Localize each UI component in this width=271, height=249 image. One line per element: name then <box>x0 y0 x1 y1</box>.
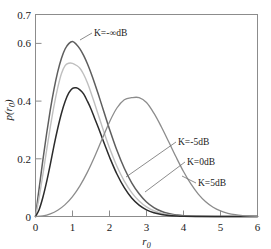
chart-series-group <box>36 41 258 216</box>
y-axis-tick-labels: 0 0.2 0.4 0.6 0.7 <box>17 9 31 223</box>
y-tick-label: 0.2 <box>17 153 31 165</box>
annotation-labels: K=-∞dB K=-5dB K=0dB K=5dB <box>94 28 226 188</box>
series-label-k-0: K=0dB <box>187 157 215 167</box>
series-curve-k0db <box>36 88 258 217</box>
y-tick-label: 0 <box>26 211 32 223</box>
x-axis-tick-labels: 0 1 2 3 4 5 6 <box>33 221 261 233</box>
x-tick-label: 5 <box>218 221 224 233</box>
x-tick-label: 0 <box>33 221 39 233</box>
x-axis-ticks <box>36 211 258 217</box>
series-label-k-5: K=5dB <box>198 178 226 188</box>
y-tick-label: 0.4 <box>17 95 31 107</box>
series-curve-k5db <box>36 97 258 216</box>
series-curve-k-5db <box>36 63 258 216</box>
chart-figure: 0 0.2 0.4 0.6 0.7 0 1 2 3 4 5 6 r0 p(r0) <box>0 0 271 249</box>
y-axis-title: p(r0) <box>2 99 17 121</box>
series-curve-k-db <box>36 41 258 216</box>
series-label-k-neg5: K=-5dB <box>178 137 209 147</box>
chart-plot-area: 0 0.2 0.4 0.6 0.7 0 1 2 3 4 5 6 r0 p(r0) <box>0 0 271 249</box>
x-tick-label: 2 <box>107 221 113 233</box>
y-tick-label: 0.7 <box>17 9 31 21</box>
x-tick-label: 1 <box>70 221 76 233</box>
series-label-k-neg-inf: K=-∞dB <box>94 28 127 38</box>
y-tick-label: 0.6 <box>17 37 31 49</box>
x-tick-label: 6 <box>255 221 261 233</box>
x-axis-title: r0 <box>142 235 150 249</box>
x-tick-label: 3 <box>144 221 150 233</box>
x-tick-label: 4 <box>181 221 187 233</box>
